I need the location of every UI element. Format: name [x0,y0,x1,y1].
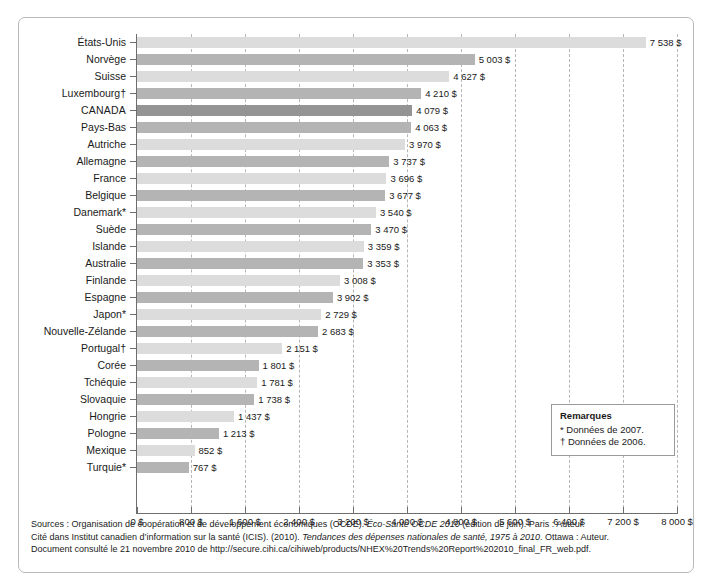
bar-value-label: 1 801 $ [263,357,295,374]
y-axis-line [136,34,137,513]
x-axis-tick [461,507,462,514]
bar-value-label: 3 737 $ [393,153,425,170]
bar[interactable] [137,292,333,303]
bar[interactable] [137,241,364,252]
category-label: Luxembourg† [19,85,126,102]
category-label: Islande [19,238,126,255]
bar-row[interactable]: Japon*2 729 $ [19,306,695,323]
bar[interactable] [137,207,376,218]
bar[interactable] [137,190,385,201]
bar-value-label: 1 437 $ [238,408,270,425]
bar-chart-plot-area: États-Unis7 538 $Norvège5 003 $Suisse4 6… [19,18,695,510]
remarks-title: Remarques [560,410,667,423]
bar[interactable] [137,411,234,422]
category-label: Slovaquie [19,391,126,408]
bar-value-label: 3 970 $ [409,136,441,153]
bar-row[interactable]: France3 696 $ [19,170,695,187]
bar[interactable] [137,275,340,286]
category-label: Suisse [19,68,126,85]
bar[interactable] [137,360,259,371]
bar-value-label: 2 729 $ [325,306,357,323]
bar[interactable] [137,377,257,388]
category-label: Nouvelle-Zélande [19,323,126,340]
bar-value-label: 3 677 $ [389,187,421,204]
bar-value-label: 3 902 $ [337,289,369,306]
category-label: Pays-Bas [19,119,126,136]
bar-row[interactable]: Espagne3 902 $ [19,289,695,306]
bar-value-label: 2 683 $ [322,323,354,340]
bar-row[interactable]: Tchéquie1 781 $ [19,374,695,391]
source-line-2: Cité dans Institut canadien d’informatio… [31,531,683,544]
remarks-legend-box: Remarques * Données de 2007. † Données d… [551,404,675,456]
category-label: Allemagne [19,153,126,170]
category-label: CANADA [19,102,126,119]
bar-row[interactable]: Luxembourg†4 210 $ [19,85,695,102]
bar[interactable] [137,309,321,320]
bar-row[interactable]: Allemagne3 737 $ [19,153,695,170]
category-label: Espagne [19,289,126,306]
bar-row[interactable]: Islande3 359 $ [19,238,695,255]
bar-value-label: 1 738 $ [258,391,290,408]
bar-row[interactable]: Danemark*3 540 $ [19,204,695,221]
bar[interactable] [137,54,475,65]
bar[interactable] [137,173,386,184]
bar[interactable] [137,88,421,99]
x-axis-tick [515,507,516,514]
bar-row[interactable]: Australie3 353 $ [19,255,695,272]
bar-value-label: 3 470 $ [375,221,407,238]
bar[interactable] [137,139,405,150]
bar[interactable] [137,326,318,337]
x-axis-tick [191,507,192,514]
bar-value-label: 1 781 $ [261,374,293,391]
category-label: Japon* [19,306,126,323]
bar[interactable] [137,258,363,269]
bar-value-label: 852 $ [199,442,223,459]
bar-row[interactable]: Corée1 801 $ [19,357,695,374]
bar-value-label: 4 210 $ [425,85,457,102]
x-axis-tick [407,507,408,514]
category-label: Hongrie [19,408,126,425]
category-label: Corée [19,357,126,374]
source-line-2-b: . Ottawa : Auteur. [540,532,609,542]
bar-row[interactable]: États-Unis7 538 $ [19,34,695,51]
category-label: Norvège [19,51,126,68]
bar[interactable] [137,462,189,473]
source-line-1-a: Sources : Organisation de coopération et… [31,519,367,529]
bar[interactable] [137,428,219,439]
x-axis-tick [623,507,624,514]
category-label: États-Unis [19,34,126,51]
bar[interactable] [137,445,195,456]
bar-row[interactable]: Autriche3 970 $ [19,136,695,153]
bar-row[interactable]: Turquie*767 $ [19,459,695,476]
source-line-2-italic: Tendances des dépenses nationales de san… [302,532,540,542]
bar-row[interactable]: Belgique3 677 $ [19,187,695,204]
bar[interactable] [137,343,282,354]
category-label: Danemark* [19,204,126,221]
sources-footnote: Sources : Organisation de coopération et… [31,518,683,556]
x-axis-tick [299,507,300,514]
bar-row[interactable]: Norvège5 003 $ [19,51,695,68]
category-label: France [19,170,126,187]
category-label: Finlande [19,272,126,289]
bar[interactable] [137,122,411,133]
bar-row[interactable]: Finlande3 008 $ [19,272,695,289]
bar-row[interactable]: Pays-Bas4 063 $ [19,119,695,136]
bar-row[interactable]: Portugal†2 151 $ [19,340,695,357]
bar[interactable] [137,394,254,405]
chart-frame: États-Unis7 538 $Norvège5 003 $Suisse4 6… [18,17,694,573]
source-line-1-italic: Éco-Santé OCDE 2010 [367,519,460,529]
bar-row[interactable]: Suède3 470 $ [19,221,695,238]
bar-value-label: 1 213 $ [223,425,255,442]
source-line-1: Sources : Organisation de coopération et… [31,518,683,531]
bar-row[interactable]: Nouvelle-Zélande2 683 $ [19,323,695,340]
bar-row[interactable]: CANADA4 079 $ [19,102,695,119]
bar[interactable] [137,37,646,48]
bar-value-label: 4 627 $ [453,68,485,85]
category-label: Tchéquie [19,374,126,391]
bar-value-label: 7 538 $ [650,34,682,51]
bar[interactable] [137,224,371,235]
bar-row[interactable]: Suisse4 627 $ [19,68,695,85]
bar[interactable] [137,71,449,82]
bar[interactable] [137,156,389,167]
bar[interactable] [137,105,412,116]
